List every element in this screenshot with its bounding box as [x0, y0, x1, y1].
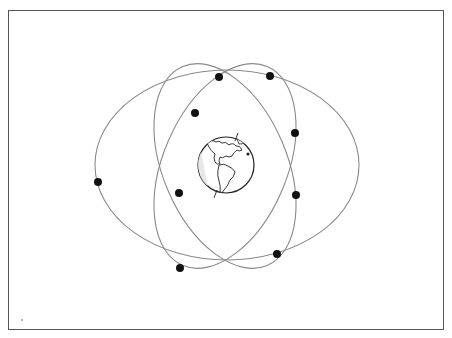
- satellite-dot-icon: [292, 191, 300, 199]
- satellite-orbit-diagram: [0, 0, 452, 338]
- satellite-dot-icon: [176, 264, 184, 272]
- satellite-dot-icon: [291, 129, 299, 137]
- earth-globe-icon: [196, 133, 254, 200]
- satellite-dot-icon: [94, 178, 102, 186]
- satellite-dot-icon: [266, 72, 274, 80]
- satellite-dot-icon: [273, 250, 281, 258]
- satellite-group: [94, 72, 300, 272]
- satellite-dot-icon: [215, 73, 223, 81]
- scan-speck: [21, 319, 23, 321]
- satellite-dot-icon: [191, 109, 199, 117]
- satellite-dot-icon: [175, 189, 183, 197]
